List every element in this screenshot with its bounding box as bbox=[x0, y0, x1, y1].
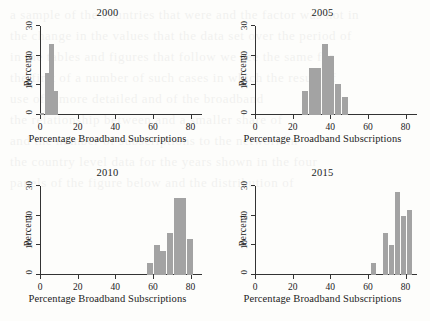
y-axis-tick-label: 20 bbox=[239, 211, 249, 220]
histogram-bar bbox=[309, 68, 315, 115]
x-axis-title: Percentage Broadband Subscriptions bbox=[0, 293, 215, 304]
y-axis-tick-label: 30 bbox=[24, 181, 34, 190]
x-axis-tick bbox=[330, 115, 331, 119]
y-axis-tick-label: 10 bbox=[24, 240, 34, 249]
x-axis-tick-label: 20 bbox=[73, 282, 83, 292]
x-axis-tick bbox=[191, 115, 192, 119]
y-axis-tick-label: 10 bbox=[239, 80, 249, 89]
x-axis-tick-label: 20 bbox=[73, 122, 83, 132]
histogram-bar bbox=[54, 91, 58, 115]
x-axis-tick bbox=[115, 115, 116, 119]
y-axis-tick bbox=[36, 185, 40, 186]
y-axis-tick bbox=[36, 84, 40, 85]
x-axis-tick-label: 80 bbox=[186, 122, 196, 132]
histogram-bar bbox=[147, 263, 153, 275]
x-axis-tick-label: 40 bbox=[326, 282, 336, 292]
histogram-bar bbox=[322, 44, 328, 115]
y-axis-tick-label: 0 bbox=[24, 270, 34, 275]
histogram-bar bbox=[371, 263, 376, 275]
histogram-panel-grid: 2000PercentPercentage Broadband Subscrip… bbox=[0, 0, 430, 321]
histogram-bar bbox=[328, 56, 334, 115]
y-axis-tick-label: 20 bbox=[24, 51, 34, 60]
x-axis-tick-label: 80 bbox=[401, 122, 411, 132]
y-axis-tick-label: 0 bbox=[24, 110, 34, 115]
x-axis-tick bbox=[255, 115, 256, 119]
y-axis-tick bbox=[36, 25, 40, 26]
histogram-bar bbox=[302, 91, 308, 115]
x-axis-title: Percentage Broadband Subscriptions bbox=[0, 133, 215, 144]
x-axis-tick bbox=[255, 275, 256, 279]
histogram-bar bbox=[389, 245, 394, 275]
panel-title-2010: 2010 bbox=[0, 167, 215, 178]
panel-2010: 2010PercentPercentage Broadband Subscrip… bbox=[0, 160, 215, 321]
y-axis-tick bbox=[251, 55, 255, 56]
y-axis-tick bbox=[36, 215, 40, 216]
histogram-bar bbox=[180, 198, 186, 275]
x-axis-tick-label: 40 bbox=[326, 122, 336, 132]
plot-area: 0204060800102030 bbox=[255, 26, 415, 115]
y-axis-tick bbox=[251, 244, 255, 245]
panel-2015: 2015PercentPercentage Broadband Subscrip… bbox=[215, 160, 430, 321]
y-axis-tick bbox=[251, 215, 255, 216]
panel-2005: 2005PercentPercentage Broadband Subscrip… bbox=[215, 0, 430, 160]
x-axis-tick bbox=[406, 115, 407, 119]
histogram-bar bbox=[315, 68, 321, 115]
x-axis-tick bbox=[153, 275, 154, 279]
histogram-bar bbox=[335, 84, 341, 115]
panel-2000: 2000PercentPercentage Broadband Subscrip… bbox=[0, 0, 215, 160]
x-axis-tick bbox=[191, 275, 192, 279]
histogram-bar bbox=[383, 233, 388, 275]
panel-title-2005: 2005 bbox=[215, 7, 430, 18]
x-axis-tick bbox=[40, 115, 41, 119]
x-axis-tick-label: 60 bbox=[363, 282, 373, 292]
x-axis-tick-label: 0 bbox=[253, 282, 258, 292]
y-axis-line bbox=[40, 26, 41, 115]
y-axis-tick bbox=[251, 274, 255, 275]
x-axis-tick bbox=[115, 275, 116, 279]
x-axis-tick-label: 60 bbox=[148, 122, 158, 132]
y-axis-tick bbox=[36, 274, 40, 275]
y-axis-tick bbox=[36, 55, 40, 56]
y-axis-tick bbox=[251, 84, 255, 85]
y-axis-title: Percent bbox=[227, 26, 258, 115]
x-axis-tick bbox=[40, 275, 41, 279]
x-axis-tick bbox=[293, 115, 294, 119]
x-axis-tick bbox=[293, 275, 294, 279]
panel-title-2015: 2015 bbox=[215, 167, 430, 178]
x-axis-tick bbox=[153, 115, 154, 119]
y-axis-title: Percent bbox=[227, 186, 258, 275]
x-axis-tick-label: 40 bbox=[111, 122, 121, 132]
y-axis-tick-label: 0 bbox=[239, 270, 249, 275]
x-axis-tick-label: 60 bbox=[363, 122, 373, 132]
x-axis-tick-label: 20 bbox=[288, 122, 298, 132]
histogram-bar bbox=[407, 210, 412, 275]
y-axis-tick-label: 10 bbox=[239, 240, 249, 249]
y-axis-line bbox=[255, 26, 256, 115]
x-axis-line bbox=[40, 114, 202, 115]
y-axis-line bbox=[255, 186, 256, 275]
x-axis-tick bbox=[78, 115, 79, 119]
histogram-bar bbox=[167, 233, 173, 275]
histogram-bar bbox=[174, 198, 180, 275]
x-axis-tick bbox=[368, 115, 369, 119]
y-axis-tick-label: 20 bbox=[24, 211, 34, 220]
y-axis-tick bbox=[36, 244, 40, 245]
plot-area: 0204060800102030 bbox=[40, 186, 200, 275]
x-axis-tick-label: 60 bbox=[148, 282, 158, 292]
x-axis-tick-label: 40 bbox=[111, 282, 121, 292]
histogram-bar bbox=[154, 245, 160, 275]
y-axis-tick bbox=[251, 185, 255, 186]
x-axis-tick-label: 0 bbox=[253, 122, 258, 132]
panel-title-2000: 2000 bbox=[0, 7, 215, 18]
plot-area: 0204060800102030 bbox=[255, 186, 415, 275]
y-axis-line bbox=[40, 186, 41, 275]
y-axis-tick-label: 30 bbox=[24, 21, 34, 30]
histogram-bar bbox=[49, 44, 53, 115]
histogram-bar bbox=[187, 239, 193, 275]
histogram-bar bbox=[40, 113, 44, 115]
x-axis-tick bbox=[368, 275, 369, 279]
histogram-bar bbox=[45, 73, 49, 115]
y-axis-tick-label: 30 bbox=[239, 21, 249, 30]
x-axis-tick-label: 20 bbox=[288, 282, 298, 292]
histogram-bar bbox=[395, 192, 400, 275]
